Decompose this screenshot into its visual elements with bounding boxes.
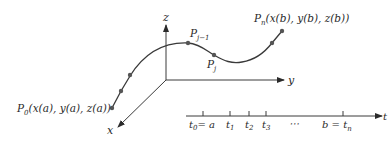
space-curve (112, 31, 282, 108)
tick-label-t2: t2 (245, 119, 254, 132)
point-pj-minus-1 (186, 41, 190, 45)
point-p2 (128, 73, 132, 77)
tick-label-t0: t0= a (189, 119, 215, 132)
point-pn-minus-1 (270, 41, 274, 45)
t-axis-label: t (383, 111, 388, 122)
tick-label-t1: t1 (226, 119, 235, 132)
z-axis-label: z (162, 11, 169, 24)
tick-label-ellipsis: ⋯ (289, 118, 299, 129)
y-axis-label: y (287, 74, 295, 87)
label-pj: Pj (206, 58, 217, 73)
tick-label-tn: b = tn (322, 119, 352, 133)
point-pj (212, 53, 216, 57)
tick-label-t3: t3 (262, 119, 271, 132)
label-pn: Pn(x(b), y(b), z(b)) (253, 12, 349, 27)
x-axis-label: x (107, 124, 114, 137)
parametric-curve-diagram: z y x P0(x(a), y(a), z(a)) Pj−1 Pj Pn(x(… (0, 0, 389, 146)
point-p1 (119, 89, 123, 93)
label-pj-minus-1: Pj−1 (189, 27, 210, 42)
t-axis: t t0= a t1 t2 t3 ⋯ b = tn (186, 111, 388, 133)
point-pn (280, 29, 284, 33)
x-axis (118, 80, 166, 127)
label-p0: P0(x(a), y(a), z(a)) (16, 102, 111, 117)
